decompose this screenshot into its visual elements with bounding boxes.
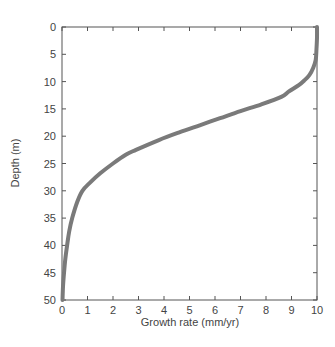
y-tick-label: 0 xyxy=(50,21,56,33)
x-tick-labels: 012345678910 xyxy=(59,304,323,316)
y-tick-label: 35 xyxy=(44,212,56,224)
y-tick-label: 10 xyxy=(44,76,56,88)
x-tick-label: 8 xyxy=(263,304,269,316)
depth-growth-chart: 012345678910 05101520253035404550 Growth… xyxy=(0,0,335,347)
x-tick-label: 9 xyxy=(288,304,294,316)
x-tick-label: 7 xyxy=(237,304,243,316)
y-tick-labels: 05101520253035404550 xyxy=(44,21,56,306)
y-tick-label: 5 xyxy=(50,48,56,60)
x-tick-label: 5 xyxy=(186,304,192,316)
y-axis-label: Depth (m) xyxy=(9,139,21,188)
y-tick-label: 20 xyxy=(44,130,56,142)
axes-box xyxy=(62,27,317,300)
x-axis-label: Growth rate (mm/yr) xyxy=(141,316,239,328)
y-tick-label: 25 xyxy=(44,158,56,170)
y-tick-label: 15 xyxy=(44,103,56,115)
y-tick-label: 50 xyxy=(44,294,56,306)
x-tick-label: 4 xyxy=(161,304,167,316)
y-tick-label: 40 xyxy=(44,239,56,251)
y-tick-label: 45 xyxy=(44,267,56,279)
axis-ticks xyxy=(62,27,317,300)
x-tick-label: 0 xyxy=(59,304,65,316)
plot-frame xyxy=(62,27,317,300)
y-tick-label: 30 xyxy=(44,185,56,197)
x-tick-label: 3 xyxy=(135,304,141,316)
x-tick-label: 1 xyxy=(84,304,90,316)
x-tick-label: 10 xyxy=(311,304,323,316)
x-tick-label: 6 xyxy=(212,304,218,316)
growth-rate-curve xyxy=(63,27,318,300)
x-tick-label: 2 xyxy=(110,304,116,316)
